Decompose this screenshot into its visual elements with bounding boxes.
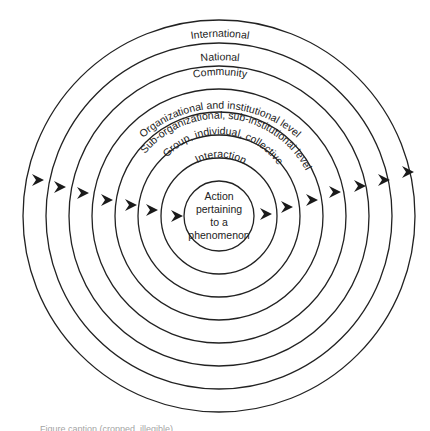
arrow-right-icon: [146, 204, 158, 216]
arrow-right-icon: [101, 194, 113, 206]
arrow-right-icon: [54, 181, 66, 193]
label-interaction: Interaction: [193, 147, 249, 166]
figure-caption-cropped: Figure caption (cropped, illegible): [40, 421, 400, 431]
arrow-right-icon: [281, 201, 293, 213]
svg-text:to a: to a: [210, 216, 228, 228]
arrow-right-icon: [32, 174, 44, 186]
arrow-right-icon: [171, 210, 183, 222]
arrow-right-icon: [125, 199, 137, 211]
arrow-right-icon: [260, 208, 272, 220]
arrow-right-icon: [329, 186, 341, 198]
label-international: International: [190, 27, 251, 41]
svg-text:pertaining: pertaining: [196, 203, 242, 215]
arrow-right-icon: [354, 180, 366, 192]
arrow-right-icon: [306, 194, 318, 206]
arrow-right-icon: [77, 187, 89, 199]
arrow-right-icon: [378, 174, 390, 186]
svg-text:Action: Action: [204, 190, 233, 202]
center-label: Action pertaining to a phenomenon: [188, 190, 249, 241]
svg-text:phenomenon: phenomenon: [188, 229, 249, 241]
label-community: Community: [192, 65, 249, 80]
label-national: National: [200, 50, 240, 63]
arrow-right-icon: [402, 166, 414, 178]
